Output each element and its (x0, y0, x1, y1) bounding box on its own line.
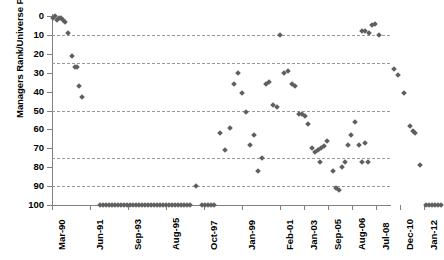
data-point (235, 70, 241, 76)
data-point (330, 168, 336, 174)
y-axis-tick-label: 70 (33, 142, 44, 153)
y-axis-tick (47, 92, 52, 93)
y-axis-tick-label: 30 (33, 67, 44, 78)
x-axis-tick (52, 205, 53, 210)
data-point (412, 130, 418, 136)
x-axis-tick-label: Sep-05 (332, 219, 343, 250)
x-axis-tick (328, 205, 329, 210)
y-axis-tick-label: 40 (33, 86, 44, 97)
x-axis-tick-label: Feb-01 (284, 219, 295, 250)
y-axis-tick-label: 0 (39, 10, 44, 21)
data-point (231, 81, 237, 87)
grid-line (52, 63, 390, 64)
data-point (302, 113, 308, 119)
data-point (227, 125, 233, 131)
data-point (336, 187, 342, 193)
data-point (345, 142, 351, 148)
data-point (69, 53, 75, 59)
plot-area: 0102030405060708090100Mar-90Jun-91Sep-93… (52, 16, 390, 205)
data-point (187, 202, 193, 208)
grid-line (52, 111, 390, 112)
y-axis-title-container: Managers Rank/Universe Percentile (0, 14, 14, 208)
y-axis-tick-label: 60 (33, 123, 44, 134)
data-point (222, 147, 228, 153)
x-axis-tick (90, 205, 91, 210)
data-point (62, 19, 68, 25)
grid-line (52, 35, 390, 36)
data-point (247, 142, 253, 148)
x-axis-tick-label: Jan-99 (246, 220, 257, 250)
data-point (395, 72, 401, 78)
x-axis-tick (242, 205, 243, 210)
data-point (362, 140, 368, 146)
x-axis-tick (376, 205, 377, 210)
x-axis-tick-label: Oct-97 (208, 220, 219, 250)
data-point (376, 32, 382, 38)
data-point (372, 21, 378, 27)
data-point (211, 202, 217, 208)
data-point (342, 159, 348, 165)
data-point (243, 110, 249, 116)
data-point (305, 121, 311, 127)
x-axis-tick-label: Jan-03 (308, 220, 319, 250)
x-axis-tick (400, 205, 401, 210)
x-axis-tick-label: Jan-12 (428, 220, 439, 250)
data-point (217, 130, 223, 136)
grid-line (52, 158, 390, 159)
x-axis-tick-label: Aug-95 (170, 218, 181, 250)
y-axis-tick-label: 80 (33, 161, 44, 172)
y-axis-tick (47, 167, 52, 168)
y-axis-tick (47, 129, 52, 130)
y-axis-tick (47, 54, 52, 55)
data-point (251, 132, 257, 138)
data-point (79, 94, 85, 100)
x-axis-tick (352, 205, 353, 210)
y-axis-tick (47, 73, 52, 74)
x-axis-tick-label: Jul-08 (380, 223, 391, 250)
x-axis-tick (304, 205, 305, 210)
x-axis-tick-label: Mar-90 (56, 219, 67, 250)
data-point (285, 68, 291, 74)
x-axis-tick-label: Dec-10 (404, 219, 415, 250)
data-point (339, 164, 345, 170)
data-point (277, 32, 283, 38)
data-point (239, 91, 245, 97)
data-point (259, 155, 265, 161)
data-point (391, 66, 397, 72)
data-point (317, 159, 323, 165)
data-point (401, 91, 407, 97)
data-point (255, 168, 261, 174)
data-point (193, 183, 199, 189)
y-axis-tick-label: 20 (33, 48, 44, 59)
data-point (324, 138, 330, 144)
y-axis-tick-label: 50 (33, 105, 44, 116)
x-axis-tick-label: Jun-91 (94, 219, 105, 250)
y-axis-tick-label: 90 (33, 180, 44, 191)
data-point (292, 83, 298, 89)
x-axis-tick (280, 205, 281, 210)
y-axis-tick-label: 100 (28, 199, 44, 210)
data-point (348, 132, 354, 138)
data-point (352, 119, 358, 125)
data-point (438, 202, 444, 208)
y-axis-tick-label: 10 (33, 29, 44, 40)
y-axis-title: Managers Rank/Universe Percentile (10, 0, 28, 134)
data-point (76, 83, 82, 89)
y-axis-tick (47, 148, 52, 149)
data-point (417, 162, 423, 168)
data-point (365, 159, 371, 165)
data-point (274, 104, 280, 110)
x-axis-tick-label: Sep-93 (132, 219, 143, 250)
x-axis-tick-label: Aug-06 (356, 218, 367, 250)
